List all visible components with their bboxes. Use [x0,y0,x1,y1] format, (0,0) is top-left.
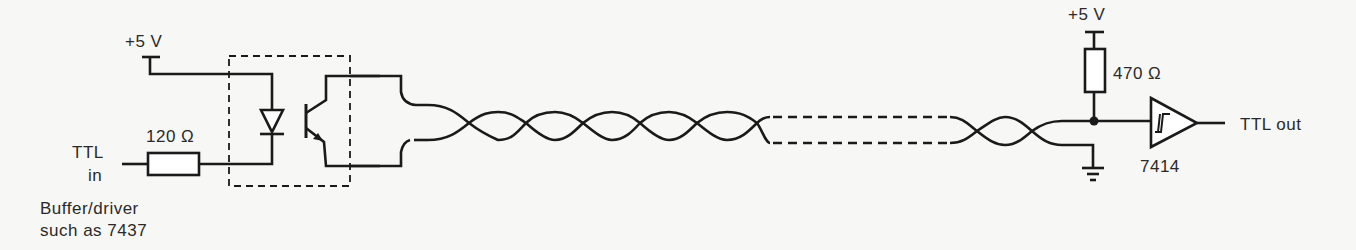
cable-left-termination [350,60,440,180]
resistor-470-ohm [1085,49,1105,92]
left-supply-wire [150,57,272,110]
gate-label: 7414 [1140,157,1180,176]
led-diode-icon [261,110,283,132]
twisted-wire-b-right [950,117,1093,168]
led-return-wire [199,135,272,164]
optocoupler-circuit-diagram: +5 V TTL in 120 Ω Buffer/driver such as … [0,0,1356,250]
driver-note-line2: such as 7437 [40,221,147,240]
twisted-pair-cable [428,105,1093,168]
ttl-in-label-line1: TTL [72,143,104,162]
schmitt-trigger-7414: 7414 TTL out [1094,98,1301,176]
ttl-input: TTL in 120 Ω [72,127,272,185]
right-supply: +5 V 470 Ω [1068,5,1161,126]
left-supply: +5 V [125,32,272,110]
twisted-wire-a [428,105,770,140]
resistor-120-ohm [148,153,199,175]
driver-note-line1: Buffer/driver [40,199,139,218]
ttl-out-label: TTL out [1240,115,1301,134]
ground [1082,168,1104,180]
schmitt-buffer-icon [1151,98,1197,147]
resistor-470-label: 470 Ω [1113,64,1161,83]
right-supply-label: +5 V [1068,5,1106,24]
resistor-120-label: 120 Ω [146,127,194,146]
left-supply-label: +5 V [125,32,163,51]
ttl-in-label-line2: in [88,166,102,185]
